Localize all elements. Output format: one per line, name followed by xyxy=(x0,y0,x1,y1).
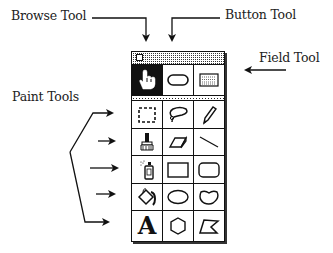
spray-can-icon xyxy=(139,160,155,180)
irregular-polygon-tool[interactable] xyxy=(194,211,224,241)
bucket-icon xyxy=(137,187,157,207)
browse-tool[interactable] xyxy=(132,64,163,96)
brush-tool[interactable] xyxy=(132,129,163,156)
rounded-rect-button-icon xyxy=(167,74,189,86)
browse-arrow xyxy=(92,18,146,40)
rounded-rectangle-icon xyxy=(198,162,220,178)
button-arrow xyxy=(172,18,220,40)
line-tool[interactable] xyxy=(194,129,224,156)
tool-palette: A xyxy=(131,51,225,242)
line-icon xyxy=(198,135,220,149)
spray-tool[interactable] xyxy=(132,156,163,184)
lasso-tool[interactable] xyxy=(163,101,194,129)
eraser-icon xyxy=(168,135,188,149)
pencil-icon xyxy=(201,105,217,125)
curve-icon xyxy=(198,189,220,205)
oval-icon xyxy=(167,189,189,205)
irregular-polygon-icon xyxy=(198,217,220,235)
rectangle-tool[interactable] xyxy=(163,156,194,184)
hand-pointer-icon xyxy=(137,69,157,91)
button-tool[interactable] xyxy=(163,64,194,96)
lasso-icon xyxy=(167,106,189,124)
oval-tool[interactable] xyxy=(163,184,194,211)
bucket-tool[interactable] xyxy=(132,184,163,211)
rounded-rectangle-tool[interactable] xyxy=(194,156,224,184)
text-field-icon xyxy=(199,73,219,87)
text-tool[interactable]: A xyxy=(132,211,163,241)
pencil-tool[interactable] xyxy=(194,101,224,129)
text-icon: A xyxy=(138,214,157,238)
close-box-icon[interactable] xyxy=(136,54,143,61)
rectangle-icon xyxy=(167,162,189,178)
polygon-tool[interactable] xyxy=(163,211,194,241)
brush-icon xyxy=(139,132,155,152)
polygon-icon xyxy=(168,216,188,236)
select-tool[interactable] xyxy=(132,101,163,129)
field-tool[interactable] xyxy=(194,64,224,96)
select-rect-icon xyxy=(138,107,156,123)
eraser-tool[interactable] xyxy=(163,129,194,156)
curve-tool[interactable] xyxy=(194,184,224,211)
